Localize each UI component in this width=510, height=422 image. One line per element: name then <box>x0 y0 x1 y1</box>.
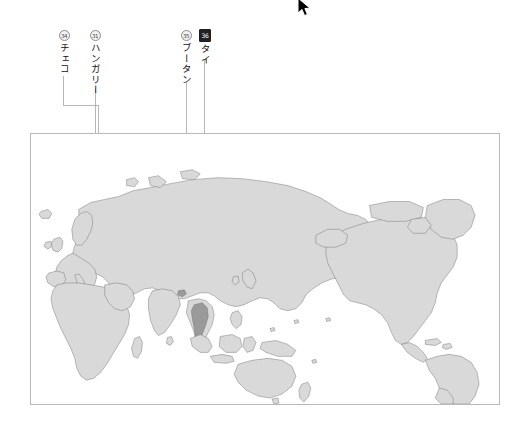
callout-thailand[interactable]: 36 タイ <box>197 29 213 65</box>
fiji <box>312 359 317 363</box>
map-frame[interactable] <box>30 133 500 405</box>
callout-badge-thailand: 36 <box>199 29 211 42</box>
callout-label-bhutan: ブータン <box>181 43 192 85</box>
callout-czechia[interactable]: 34 チェコ <box>56 30 72 75</box>
canadian-arctic <box>370 202 424 222</box>
island-speck-a <box>294 320 299 324</box>
callout-label-hungary: ハンガリー <box>90 43 101 96</box>
island-speck-b <box>270 328 275 332</box>
callout-badge-bhutan: 35 <box>181 30 192 41</box>
mouse-cursor <box>296 0 314 19</box>
callout-bhutan[interactable]: 35 ブータン <box>178 30 194 85</box>
callout-label-czechia: チェコ <box>59 43 70 75</box>
callout-label-thailand: タイ <box>200 44 211 65</box>
page-root: 34 チェコ 31 ハンガリー 35 ブータン 36 タイ <box>0 0 510 422</box>
callout-badge-hungary: 31 <box>90 30 101 41</box>
hawaii <box>326 318 331 322</box>
callout-badge-czechia: 34 <box>59 30 70 41</box>
world-map-svg <box>31 134 499 404</box>
callout-hungary[interactable]: 31 ハンガリー <box>87 30 103 96</box>
